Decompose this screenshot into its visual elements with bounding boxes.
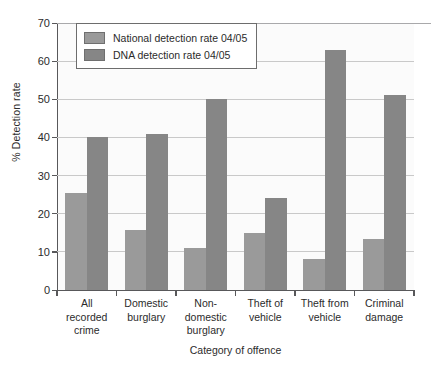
- x-axis-label: Criminaldamage: [355, 297, 415, 324]
- x-axis-label: Non-domesticburglary: [176, 297, 236, 338]
- x-tick-mark: [116, 290, 117, 296]
- legend-label: DNA detection rate 04/05: [113, 49, 230, 61]
- bar: [125, 230, 146, 290]
- bar: [265, 198, 286, 290]
- bar: [65, 193, 86, 290]
- x-axis-label-line: recorded: [57, 311, 117, 325]
- x-axis-label-line: All: [57, 297, 117, 311]
- x-axis-label-line: burglary: [176, 324, 236, 338]
- x-tick-mark: [294, 290, 295, 296]
- x-axis-label: Allrecordedcrime: [57, 297, 117, 338]
- y-tick-label: 60: [10, 55, 50, 67]
- x-tick-mark: [413, 290, 414, 296]
- chart-legend: National detection rate 04/05DNA detecti…: [76, 23, 257, 69]
- bar-group: [363, 23, 406, 290]
- legend-item: National detection rate 04/05: [84, 29, 247, 46]
- x-axis-label-line: domestic: [176, 311, 236, 325]
- bar: [206, 99, 227, 290]
- y-tick-label: 20: [10, 208, 50, 220]
- y-tick-label: 50: [10, 93, 50, 105]
- bar: [303, 259, 324, 290]
- y-tick-label: 10: [10, 246, 50, 258]
- bar: [146, 134, 167, 290]
- x-axis-label-line: Theft of: [236, 297, 296, 311]
- x-axis-label: Theft fromvehicle: [295, 297, 355, 324]
- y-tick-label: 40: [10, 131, 50, 143]
- legend-swatch: [84, 32, 105, 44]
- bar: [384, 95, 405, 290]
- bar-group: [303, 23, 346, 290]
- legend-label: National detection rate 04/05: [113, 32, 247, 44]
- x-tick-mark: [175, 290, 176, 296]
- x-axis-label-line: crime: [57, 324, 117, 338]
- x-axis-label: Domesticburglary: [117, 297, 177, 324]
- x-axis-label-line: vehicle: [295, 311, 355, 325]
- bar: [87, 137, 108, 290]
- x-axis-label-line: damage: [355, 311, 415, 325]
- x-axis-label-line: Domestic: [117, 297, 177, 311]
- bar: [244, 233, 265, 290]
- y-tick-label: 30: [10, 170, 50, 182]
- x-axis-label-line: Theft from: [295, 297, 355, 311]
- legend-swatch: [84, 49, 105, 61]
- x-axis-label-line: Criminal: [355, 297, 415, 311]
- bar: [184, 248, 205, 290]
- y-tick-label: 70: [10, 17, 50, 29]
- x-axis-label-line: vehicle: [236, 311, 296, 325]
- x-tick-mark: [235, 290, 236, 296]
- y-axis-title: % Detection rate: [10, 62, 22, 182]
- x-axis-label: Theft ofvehicle: [236, 297, 296, 324]
- x-tick-mark: [56, 290, 57, 296]
- bar: [363, 239, 384, 290]
- x-tick-mark: [354, 290, 355, 296]
- bar-chart: % Detection rate 706050403020100 Allreco…: [0, 0, 431, 370]
- legend-item: DNA detection rate 04/05: [84, 46, 247, 63]
- y-tick-label: 0: [10, 284, 50, 296]
- x-axis-label-line: burglary: [117, 311, 177, 325]
- x-axis-label-line: Non-: [176, 297, 236, 311]
- x-axis-title: Category of offence: [57, 344, 414, 356]
- bar: [325, 50, 346, 290]
